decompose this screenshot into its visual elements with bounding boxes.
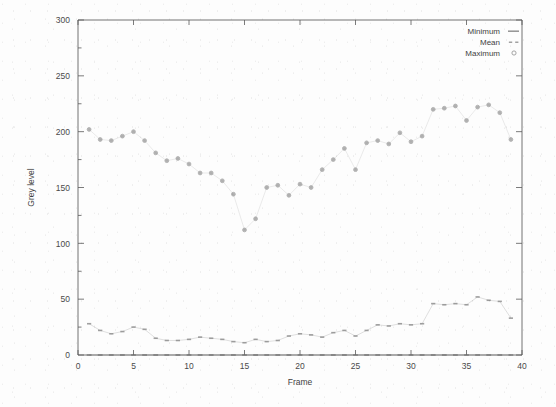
data-point — [220, 179, 224, 183]
data-point — [198, 336, 202, 338]
legend-label-minimum[interactable]: Minimum — [468, 27, 501, 36]
data-point — [165, 159, 169, 163]
data-point — [387, 325, 391, 327]
data-point — [354, 168, 358, 172]
series-mean — [87, 296, 513, 343]
data-point — [398, 354, 403, 355]
data-point — [187, 354, 192, 355]
data-point — [320, 354, 325, 355]
data-point — [98, 330, 102, 332]
data-point — [420, 323, 424, 325]
data-point — [364, 354, 369, 355]
y-tick-label: 200 — [56, 127, 70, 137]
x-tick-label: 40 — [517, 361, 527, 371]
data-point — [298, 354, 303, 355]
data-point — [287, 354, 292, 355]
data-point — [276, 340, 280, 342]
data-point — [165, 340, 169, 342]
x-tick-label: 20 — [295, 361, 305, 371]
x-tick-label: 35 — [462, 361, 472, 371]
legend-group: MinimumMeanMaximum — [465, 27, 519, 58]
data-point — [143, 139, 147, 143]
plot-frame — [78, 20, 522, 355]
data-point — [475, 354, 480, 355]
data-point — [121, 134, 125, 138]
data-point — [287, 335, 291, 337]
data-point — [465, 119, 469, 123]
data-point — [342, 330, 346, 332]
data-point — [387, 142, 391, 146]
data-point — [398, 323, 402, 325]
data-point — [131, 326, 135, 328]
data-point — [442, 354, 447, 355]
data-point — [287, 193, 291, 197]
series-group — [87, 103, 514, 356]
legend-marker-dot-icon — [509, 42, 512, 43]
data-point — [497, 354, 502, 355]
y-tick-label: 0 — [65, 350, 70, 360]
data-point — [309, 186, 313, 190]
chart-plot[interactable]: 0510152025303540050100150200250300 Minim… — [0, 0, 556, 407]
data-point — [242, 342, 246, 344]
legend-label-mean[interactable]: Mean — [480, 38, 500, 47]
data-point — [154, 337, 158, 339]
data-point — [243, 228, 247, 232]
data-point — [509, 354, 514, 355]
series-trace — [89, 297, 511, 343]
data-point — [242, 354, 247, 355]
data-point — [365, 141, 369, 145]
data-point — [254, 217, 258, 221]
data-point — [87, 354, 92, 355]
data-point — [265, 186, 269, 190]
data-point — [187, 339, 191, 341]
data-point — [275, 354, 280, 355]
data-point — [120, 354, 125, 355]
data-point — [331, 332, 335, 334]
data-point — [509, 138, 513, 142]
data-point — [109, 333, 113, 335]
x-tick-label: 0 — [76, 361, 81, 371]
data-point — [375, 354, 380, 355]
data-point — [87, 128, 91, 132]
data-point — [343, 147, 347, 151]
data-point — [353, 354, 358, 355]
data-point — [264, 354, 269, 355]
y-tick-label: 50 — [61, 294, 71, 304]
y-tick-label: 100 — [56, 239, 70, 249]
data-point — [232, 192, 236, 196]
data-point — [420, 354, 425, 355]
x-tick-label: 15 — [240, 361, 250, 371]
figure-canvas: 0510152025303540050100150200250300 Minim… — [0, 0, 556, 407]
data-point — [131, 354, 136, 355]
data-point — [276, 183, 280, 187]
data-point — [342, 354, 347, 355]
data-point — [309, 354, 314, 355]
legend-label-maximum[interactable]: Maximum — [465, 49, 500, 58]
data-point — [409, 324, 413, 326]
data-point — [442, 304, 446, 306]
data-point — [87, 323, 91, 325]
data-point — [153, 354, 158, 355]
x-tick-label: 25 — [351, 361, 361, 371]
data-point — [109, 354, 114, 355]
y-tick-label: 150 — [56, 183, 70, 193]
data-point — [98, 138, 102, 142]
data-point — [231, 354, 236, 355]
x-tick-label: 30 — [406, 361, 416, 371]
data-point — [109, 139, 113, 143]
x-tick-label: 10 — [184, 361, 194, 371]
series-maximum — [87, 103, 513, 232]
x-axis-title: Frame — [288, 377, 313, 387]
series-trace — [89, 105, 511, 230]
data-point — [509, 317, 513, 319]
data-point — [331, 158, 335, 162]
legend-marker-dash-icon — [508, 31, 519, 32]
data-point — [176, 354, 181, 355]
data-point — [143, 329, 147, 331]
y-tick-label: 250 — [56, 71, 70, 81]
data-point — [431, 354, 436, 355]
data-point — [176, 157, 180, 161]
data-point — [220, 354, 225, 355]
data-point — [320, 168, 324, 172]
data-point — [453, 303, 457, 305]
